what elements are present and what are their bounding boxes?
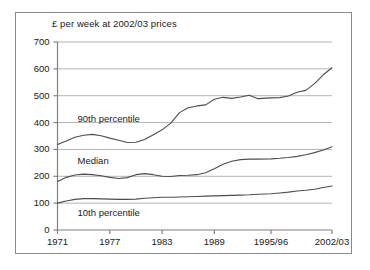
x-tick-label-2: 1983	[151, 236, 172, 247]
y-tick-label-0: 0	[22, 224, 50, 235]
y-tick-label-500: 500	[22, 90, 50, 101]
series-annotation-1: Median	[78, 155, 109, 166]
series-annotation-2: 10th percentile	[78, 207, 140, 218]
y-tick-label-700: 700	[22, 36, 50, 47]
y-tick-label-600: 600	[22, 63, 50, 74]
x-tick-label-3: 1989	[204, 236, 225, 247]
chart-plot-area	[0, 0, 370, 270]
x-tick-label-5: 2002/03	[315, 236, 349, 247]
x-tick-label-1: 1977	[99, 236, 120, 247]
x-tick-label-4: 1995/96	[254, 236, 288, 247]
series-line-2	[58, 186, 333, 203]
y-tick-label-100: 100	[22, 197, 50, 208]
y-tick-label-200: 200	[22, 170, 50, 181]
series-line-0	[58, 68, 333, 145]
y-tick-label-300: 300	[22, 143, 50, 154]
chart-screenshot: £ per week at 2002/03 prices 01002003004…	[0, 0, 370, 270]
y-tick-label-400: 400	[22, 117, 50, 128]
x-tick-label-0: 1971	[47, 236, 68, 247]
series-annotation-0: 90th percentile	[78, 113, 140, 124]
